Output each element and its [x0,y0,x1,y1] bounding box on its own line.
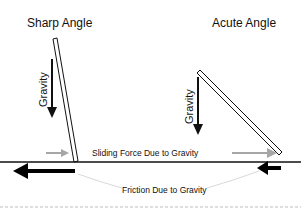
acute-angle-title: Acute Angle [212,16,276,30]
angle-friction-diagram: Sharp Angle Acute Angle Gravity Gravity … [0,0,301,210]
left-gravity-label: Gravity [37,72,49,107]
right-friction-connector [207,171,259,188]
sliding-force-label: Sliding Force Due to Gravity [92,148,199,158]
left-sliding-force-arrow [46,149,69,157]
sharp-angle-title: Sharp Angle [27,16,93,30]
right-sliding-force-arrow [232,148,277,158]
left-friction-arrow [13,163,75,179]
friction-label: Friction Due to Gravity [122,185,207,195]
right-gravity-label: Gravity [183,89,195,124]
left-friction-connector [78,174,122,188]
left-board [53,38,78,162]
right-friction-arrow [257,161,281,175]
right-board [197,70,282,155]
